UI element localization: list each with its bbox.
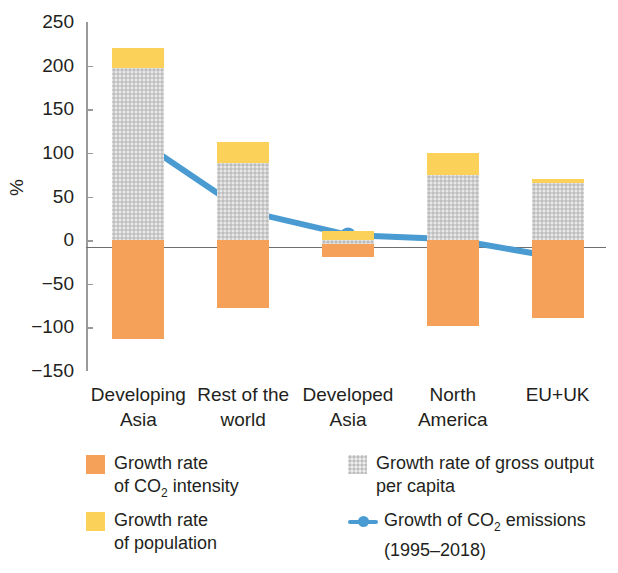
legend-label-line: Growth of CO2 emissions [384, 509, 586, 539]
y-tick-label: 100 [12, 143, 74, 162]
legend-swatch-line-icon [348, 512, 378, 531]
chart-figure: % 250200150100500−50−100−150 DevelopingA… [0, 0, 618, 573]
y-tick-label: −100 [12, 317, 74, 336]
bar-segment-yellow [322, 231, 374, 240]
x-tick-label-line: North [396, 382, 509, 407]
x-tick-label-line: world [187, 407, 300, 432]
bar-group [427, 22, 479, 371]
x-axis-tick-labels: DevelopingAsiaRest of theworldDevelopedA… [86, 382, 610, 436]
bar-group [322, 22, 374, 371]
x-tick-label-line: America [396, 407, 509, 432]
bar-group [217, 22, 269, 371]
x-tick-label-line: Developed [292, 382, 405, 407]
bar-segment-yellow [217, 142, 269, 163]
x-tick-label-line: Asia [82, 407, 195, 432]
legend-label: Growth rateof population [114, 509, 217, 555]
legend-item-co2-intensity[interactable]: Growth rateof CO2 intensity [86, 452, 239, 505]
legend-label: Growth rateof CO2 intensity [114, 452, 239, 505]
y-tick-label: 150 [12, 99, 74, 118]
y-tick-label: 200 [12, 56, 74, 75]
legend-label-line: of population [114, 532, 217, 555]
y-tick-label: −50 [12, 274, 74, 293]
bar-segment-orange [112, 240, 164, 339]
y-tick-label: 50 [12, 187, 74, 206]
y-axis-tick [86, 197, 93, 199]
bar-segment-gray [532, 183, 584, 240]
subscript: 2 [161, 486, 168, 500]
bar-segment-gray [427, 175, 479, 240]
bar-segment-orange [532, 240, 584, 318]
legend-swatch-gray-icon [348, 455, 367, 474]
legend-item-co2-emissions[interactable]: Growth of CO2 emissions(1995–2018) [348, 509, 586, 562]
legend-label-line: Growth rate [114, 509, 217, 532]
bar-segment-orange [427, 240, 479, 326]
chart-legend: Growth rateof CO2 intensityGrowth rateof… [86, 452, 618, 564]
y-axis-tick [86, 153, 93, 155]
legend-label: Growth rate of gross outputper capita [376, 452, 594, 498]
y-tick-label: −150 [12, 361, 74, 380]
y-axis-tick [86, 109, 93, 111]
bar-segment-yellow [427, 153, 479, 175]
y-tick-label: 0 [12, 230, 74, 249]
legend-label-line: Growth rate [114, 452, 239, 475]
x-tick-label-line: EU+UK [501, 382, 614, 407]
x-tick-label: Rest of theworld [187, 382, 300, 432]
y-axis-tick [86, 240, 93, 242]
legend-item-population[interactable]: Growth rateof population [86, 509, 217, 555]
y-axis-tick [86, 284, 93, 286]
y-axis-tick [86, 66, 93, 68]
x-tick-label: EU+UK [501, 382, 614, 407]
x-tick-label-line: Rest of the [187, 382, 300, 407]
bar-segment-orange [322, 244, 374, 257]
legend-label: Growth of CO2 emissions(1995–2018) [384, 509, 586, 562]
bar-segment-gray [112, 68, 164, 240]
x-tick-label-line: Developing [82, 382, 195, 407]
x-tick-label: NorthAmerica [396, 382, 509, 432]
bar-segment-yellow [532, 179, 584, 183]
bar-group [532, 22, 584, 371]
legend-label-line: per capita [376, 475, 594, 498]
x-tick-label: DevelopingAsia [82, 382, 195, 432]
bar-group [112, 22, 164, 371]
x-tick-label: DevelopedAsia [292, 382, 405, 432]
subscript: 2 [494, 520, 501, 534]
x-tick-label-line: Asia [292, 407, 405, 432]
legend-swatch-yellow-icon [86, 512, 105, 531]
y-axis-tick-labels: 250200150100500−50−100−150 [12, 0, 74, 400]
bar-segment-gray [217, 163, 269, 240]
plot-area [86, 22, 610, 371]
legend-label-line: Growth rate of gross output [376, 452, 594, 475]
y-axis-tick [86, 327, 93, 329]
y-tick-label: 250 [12, 12, 74, 31]
legend-swatch-orange-icon [86, 455, 105, 474]
legend-label-line: of CO2 intensity [114, 475, 239, 505]
bar-segment-yellow [112, 48, 164, 68]
legend-label-line: (1995–2018) [384, 539, 586, 562]
legend-item-gross-output[interactable]: Growth rate of gross outputper capita [348, 452, 594, 498]
bar-segment-orange [217, 240, 269, 308]
